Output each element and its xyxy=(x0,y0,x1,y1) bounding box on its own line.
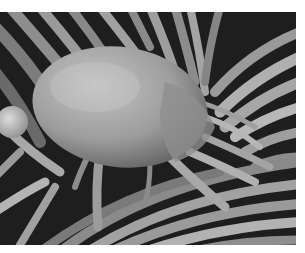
mite-illustration xyxy=(0,12,296,245)
sem-photo-dust-mite xyxy=(0,12,296,245)
